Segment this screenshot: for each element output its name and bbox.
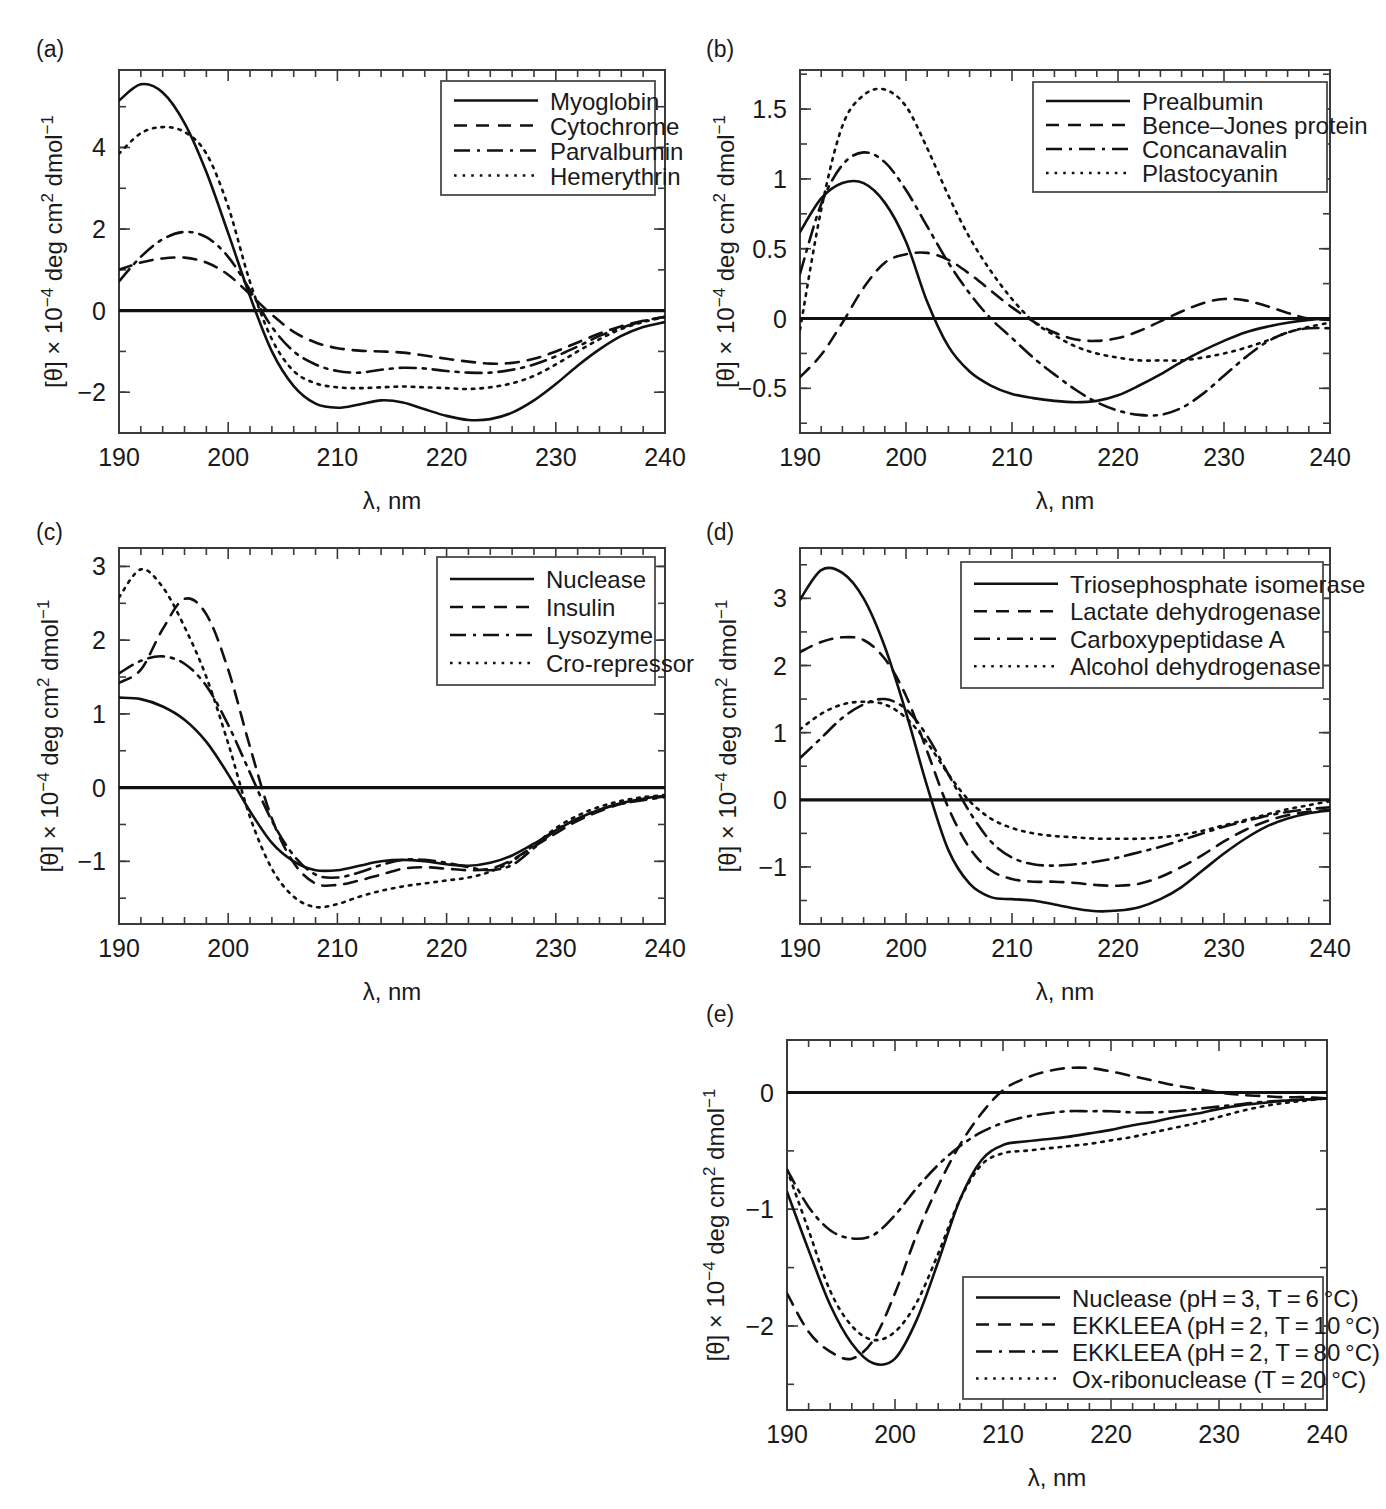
y-tick-label: 1 xyxy=(92,700,106,728)
y-tick-label: 0 xyxy=(773,305,787,333)
legend-label: Triosephosphate isomerase xyxy=(1070,571,1365,598)
y-tick-label: 0 xyxy=(92,774,106,802)
y-tick-label: −2 xyxy=(77,378,106,406)
x-tick-label: 240 xyxy=(644,934,686,962)
y-axis-title: [θ] × 10−4 deg cm2 dmol−1 xyxy=(34,599,63,872)
panel-b: (b) 1902002102202302401.510.50−0.5λ, nm[… xyxy=(690,0,1386,510)
legend-label: Parvalbumin xyxy=(550,138,683,165)
y-tick-label: 0 xyxy=(773,786,787,814)
y-axis-title: [θ] × 10−4 deg cm2 dmol−1 xyxy=(700,1088,729,1361)
x-tick-label: 230 xyxy=(535,934,577,962)
legend-label: Nuclease xyxy=(546,566,646,593)
panel-c: (c) 1902002102202302403210−1λ, nm[θ] × 1… xyxy=(0,500,690,1000)
series-curve xyxy=(800,252,1330,377)
y-tick-label: −1 xyxy=(745,1195,774,1223)
x-tick-label: 220 xyxy=(426,934,468,962)
legend-label: Plastocyanin xyxy=(1142,160,1278,187)
y-tick-label: 0.5 xyxy=(752,235,787,263)
x-tick-label: 190 xyxy=(98,934,140,962)
x-tick-label: 230 xyxy=(1198,1420,1240,1448)
panel-c-chart: 1902002102202302403210−1λ, nm[θ] × 10−4 … xyxy=(0,500,690,1000)
legend-label: Insulin xyxy=(546,594,615,621)
legend-label: Carboxypeptidase A xyxy=(1070,626,1285,653)
series-curve xyxy=(800,181,1330,402)
x-tick-label: 200 xyxy=(207,934,249,962)
y-tick-label: 3 xyxy=(92,552,106,580)
y-tick-label: 3 xyxy=(773,584,787,612)
legend-label: Ox-ribonuclease (T = 20 °C) xyxy=(1072,1366,1366,1393)
legend-label: Myoglobin xyxy=(550,88,659,115)
x-tick-label: 230 xyxy=(1203,443,1245,471)
legend-label: Cytochrome xyxy=(550,113,679,140)
legend-label: Cro-repressor xyxy=(546,650,694,677)
y-tick-label: −1 xyxy=(77,847,106,875)
y-axis-title: [θ] × 10−4 deg cm2 dmol−1 xyxy=(38,115,67,388)
series-curve xyxy=(119,232,665,373)
series-curve xyxy=(119,698,665,871)
panel-d: (d) 1902002102202302403210−1λ, nm[θ] × 1… xyxy=(690,500,1386,1000)
y-tick-label: 2 xyxy=(92,626,106,654)
x-tick-label: 200 xyxy=(874,1420,916,1448)
panel-a: (a) 190200210220230240420−2λ, nm[θ] × 10… xyxy=(0,0,690,510)
x-tick-label: 200 xyxy=(885,443,927,471)
legend-label: Lactate dehydrogenase xyxy=(1070,598,1321,625)
legend-label: EKKLEEA (pH = 2, T = 10 °C) xyxy=(1072,1312,1380,1339)
x-tick-label: 240 xyxy=(1309,934,1351,962)
panel-c-tag: (c) xyxy=(36,519,63,546)
x-tick-label: 200 xyxy=(885,934,927,962)
x-tick-label: 210 xyxy=(317,443,359,471)
panel-d-chart: 1902002102202302403210−1λ, nm[θ] × 10−4 … xyxy=(690,500,1386,1000)
series-curve xyxy=(800,699,1330,866)
x-tick-label: 240 xyxy=(1309,443,1351,471)
panel-b-chart: 1902002102202302401.510.50−0.5λ, nm[θ] ×… xyxy=(690,0,1386,510)
legend-label: Nuclease (pH = 3, T = 6 °C) xyxy=(1072,1285,1359,1312)
legend-label: Concanavalin xyxy=(1142,136,1287,163)
y-tick-label: 0 xyxy=(760,1079,774,1107)
x-tick-label: 240 xyxy=(644,443,686,471)
y-tick-label: 1.5 xyxy=(752,95,787,123)
legend-label: Prealbumin xyxy=(1142,88,1263,115)
y-tick-label: 1 xyxy=(773,719,787,747)
panel-d-tag: (d) xyxy=(706,519,734,546)
y-axis-title: [θ] × 10−4 deg cm2 dmol−1 xyxy=(710,115,739,388)
y-axis-title: [θ] × 10−4 deg cm2 dmol−1 xyxy=(712,599,741,872)
legend-label: EKKLEEA (pH = 2, T = 80 °C) xyxy=(1072,1339,1380,1366)
y-tick-label: −0.5 xyxy=(738,374,787,402)
y-tick-label: 4 xyxy=(92,133,106,161)
series-curve xyxy=(787,1098,1327,1238)
x-tick-label: 210 xyxy=(991,934,1033,962)
x-tick-label: 240 xyxy=(1306,1420,1348,1448)
x-tick-label: 200 xyxy=(207,443,249,471)
y-tick-label: 2 xyxy=(773,652,787,680)
y-tick-label: −1 xyxy=(758,853,787,881)
legend-label: Bence–Jones protein xyxy=(1142,112,1368,139)
panel-e-tag: (e) xyxy=(706,1001,734,1028)
x-tick-label: 210 xyxy=(991,443,1033,471)
panel-e: (e) 1902002102202302400−1−2λ, nm[θ] × 10… xyxy=(690,985,1386,1509)
panel-a-chart: 190200210220230240420−2λ, nm[θ] × 10−4 d… xyxy=(0,0,690,510)
x-tick-label: 230 xyxy=(535,443,577,471)
x-tick-label: 210 xyxy=(982,1420,1024,1448)
y-tick-label: 2 xyxy=(92,215,106,243)
x-axis-title: λ, nm xyxy=(1028,1464,1087,1491)
series-curve xyxy=(119,656,665,877)
x-tick-label: 190 xyxy=(98,443,140,471)
y-tick-label: 0 xyxy=(92,297,106,325)
y-tick-label: −2 xyxy=(745,1312,774,1340)
x-tick-label: 220 xyxy=(1097,443,1139,471)
x-tick-label: 220 xyxy=(426,443,468,471)
x-tick-label: 190 xyxy=(779,934,821,962)
x-axis-title: λ, nm xyxy=(363,978,422,1005)
panel-a-tag: (a) xyxy=(36,36,64,63)
legend-label: Lysozyme xyxy=(546,622,653,649)
series-curve xyxy=(800,702,1330,839)
x-tick-label: 190 xyxy=(779,443,821,471)
x-tick-label: 220 xyxy=(1090,1420,1132,1448)
x-tick-label: 220 xyxy=(1097,934,1139,962)
x-tick-label: 210 xyxy=(317,934,359,962)
panel-e-chart: 1902002102202302400−1−2λ, nm[θ] × 10−4 d… xyxy=(690,985,1386,1509)
x-tick-label: 190 xyxy=(766,1420,808,1448)
y-tick-label: 1 xyxy=(773,165,787,193)
panel-b-tag: (b) xyxy=(706,36,734,63)
legend-label: Hemerythrin xyxy=(550,163,681,190)
